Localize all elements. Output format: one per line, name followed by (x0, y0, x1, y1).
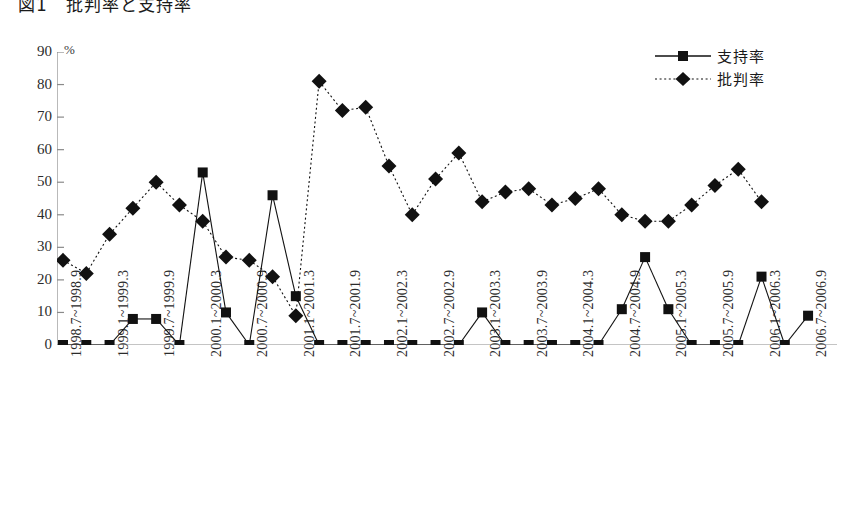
diamond-marker (655, 72, 711, 86)
y-axis-tick-label: 10 (22, 304, 52, 319)
chart-legend: 支持率批判率 (655, 44, 765, 90)
y-axis-tick-label: 60 (22, 142, 52, 157)
y-axis-tick-label: 40 (22, 207, 52, 222)
y-axis-tick-label: 80 (22, 77, 52, 92)
y-axis-tick-label: 20 (22, 272, 52, 287)
legend-item-criticism[interactable]: 批判率 (655, 67, 765, 90)
y-axis-tick-label: 90 (22, 44, 52, 59)
y-axis-tick-label: 30 (22, 239, 52, 254)
y-axis-tick-label: 0 (22, 337, 52, 352)
legend-item-support[interactable]: 支持率 (655, 44, 765, 67)
plot-area (57, 52, 837, 345)
y-axis-tick-label: 50 (22, 174, 52, 189)
legend-item-label: 支持率 (717, 45, 765, 66)
chart-title: 図1 批判率と支持率 (18, 0, 192, 16)
y-axis-tick-label: 70 (22, 109, 52, 124)
square-marker (655, 49, 711, 63)
series-plot (57, 52, 837, 345)
legend-item-label: 批判率 (717, 68, 765, 89)
chart-page: 図1 批判率と支持率 % 0102030405060708090 1998.7~… (0, 0, 854, 523)
